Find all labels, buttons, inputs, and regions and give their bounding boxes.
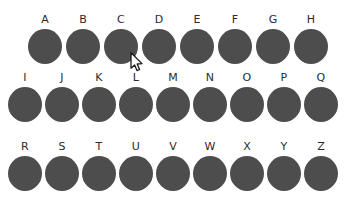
dot-item-f[interactable]: F (218, 14, 252, 64)
dot-item-w[interactable]: W (193, 141, 227, 191)
dot-item-a[interactable]: A (28, 14, 62, 64)
dot-label: I (23, 72, 26, 84)
dot-circle[interactable] (45, 87, 79, 122)
dot-label: U (132, 141, 140, 153)
dot-item-l[interactable]: L (119, 72, 153, 122)
dot-item-q[interactable]: Q (304, 72, 338, 122)
dot-label: N (206, 72, 214, 84)
dot-item-i[interactable]: I (8, 72, 42, 122)
dot-circle[interactable] (294, 29, 328, 64)
dot-circle[interactable] (45, 156, 79, 191)
dot-item-b[interactable]: B (66, 14, 100, 64)
dot-label: C (117, 14, 125, 26)
dot-label: L (133, 72, 139, 84)
dot-item-o[interactable]: O (230, 72, 264, 122)
dot-item-r[interactable]: R (8, 141, 42, 191)
dot-circle[interactable] (104, 29, 138, 64)
dot-label: V (169, 141, 177, 153)
dot-item-t[interactable]: T (82, 141, 116, 191)
dot-circle[interactable] (142, 29, 176, 64)
dot-circle[interactable] (66, 29, 100, 64)
dot-item-e[interactable]: E (180, 14, 214, 64)
dot-label: X (243, 141, 251, 153)
dot-item-y[interactable]: Y (267, 141, 301, 191)
dot-circle[interactable] (119, 87, 153, 122)
dot-circle[interactable] (193, 87, 227, 122)
dot-label: B (79, 14, 87, 26)
dot-item-h[interactable]: H (294, 14, 328, 64)
dot-circle[interactable] (230, 156, 264, 191)
dot-item-v[interactable]: V (156, 141, 190, 191)
dot-circle[interactable] (304, 87, 338, 122)
dot-label: Y (281, 141, 288, 153)
dot-label: A (41, 14, 49, 26)
dot-item-m[interactable]: M (156, 72, 190, 122)
dot-label: K (95, 72, 102, 84)
dot-circle[interactable] (218, 29, 252, 64)
dot-item-p[interactable]: P (267, 72, 301, 122)
dot-circle[interactable] (180, 29, 214, 64)
dot-circle[interactable] (193, 156, 227, 191)
row-1: ABCDEFGH (28, 14, 328, 64)
dot-label: S (58, 141, 65, 153)
dot-circle[interactable] (82, 87, 116, 122)
dot-item-s[interactable]: S (45, 141, 79, 191)
dot-item-z[interactable]: Z (304, 141, 338, 191)
dot-label: G (269, 14, 278, 26)
dot-item-x[interactable]: X (230, 141, 264, 191)
dot-label: H (307, 14, 315, 26)
dot-label: M (168, 72, 178, 84)
dot-circle[interactable] (119, 156, 153, 191)
dot-circle[interactable] (256, 29, 290, 64)
dot-label: R (21, 141, 29, 153)
dot-label: D (155, 14, 164, 26)
dot-item-g[interactable]: G (256, 14, 290, 64)
dot-label: O (243, 72, 252, 84)
dot-circle[interactable] (267, 156, 301, 191)
dot-item-d[interactable]: D (142, 14, 176, 64)
dot-circle[interactable] (267, 87, 301, 122)
dot-item-c[interactable]: C (104, 14, 138, 64)
dot-label: T (96, 141, 103, 153)
dot-grid-canvas: ABCDEFGHIJKLMNOPQRSTUVWXYZ (0, 0, 354, 206)
dot-circle[interactable] (28, 29, 62, 64)
dot-circle[interactable] (230, 87, 264, 122)
dot-circle[interactable] (82, 156, 116, 191)
dot-label: Z (317, 141, 325, 153)
dot-circle[interactable] (304, 156, 338, 191)
dot-circle[interactable] (8, 156, 42, 191)
dot-label: P (281, 72, 288, 84)
dot-item-u[interactable]: U (119, 141, 153, 191)
dot-circle[interactable] (156, 87, 190, 122)
dot-label: J (60, 72, 63, 84)
row-2: IJKLMNOPQ (8, 72, 338, 122)
dot-label: E (193, 14, 200, 26)
row-3: RSTUVWXYZ (8, 141, 338, 191)
dot-label: F (232, 14, 239, 26)
dot-item-k[interactable]: K (82, 72, 116, 122)
dot-item-n[interactable]: N (193, 72, 227, 122)
dot-circle[interactable] (8, 87, 42, 122)
dot-circle[interactable] (156, 156, 190, 191)
dot-item-j[interactable]: J (45, 72, 79, 122)
dot-label: W (204, 141, 215, 153)
dot-label: Q (317, 72, 326, 84)
